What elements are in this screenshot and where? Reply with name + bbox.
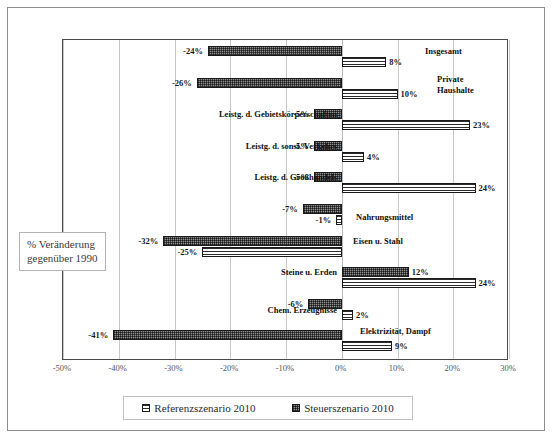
value-label-referenz: 4% xyxy=(367,152,380,162)
category-label-line: Insgesamt xyxy=(425,46,462,57)
category-label: Nahrungsmittel xyxy=(356,212,413,223)
bar-referenz xyxy=(342,152,364,162)
x-tick-label--40: -40% xyxy=(109,363,127,373)
plot-area: -24%8%Insgesamt-26%10%PrivateHaushalte-5… xyxy=(62,39,508,360)
bar-steuer xyxy=(113,330,342,340)
category-label: Eisen u. Stahl xyxy=(353,236,403,247)
value-label-steuer: -26% xyxy=(172,78,192,88)
annotation-box: % Veränderung gegenüber 1990 xyxy=(19,232,106,271)
value-label-steuer: -24% xyxy=(183,46,203,56)
category-label: PrivateHaushalte xyxy=(437,74,474,96)
x-tick-label-10: 10% xyxy=(389,363,405,373)
category-label: Chem. Erzeugnisse xyxy=(268,305,337,316)
value-label-referenz: 24% xyxy=(479,278,496,288)
x-tick-label--30: -30% xyxy=(164,363,182,373)
value-label-referenz: 10% xyxy=(401,89,418,99)
chart-legend: Referenzszenario 2010 Steuerszenario 201… xyxy=(123,396,413,420)
value-label-steuer: -32% xyxy=(139,236,159,246)
chart-outer-frame: -24%8%Insgesamt-26%10%PrivateHaushalte-5… xyxy=(7,7,545,431)
value-label-steuer: 12% xyxy=(412,267,429,277)
bar-referenz xyxy=(336,215,342,225)
category-label: Elektrizität, Dampf xyxy=(360,326,431,337)
legend-swatch-icon-referenz xyxy=(142,404,150,412)
category-label-line: Leistg. d. Gebietskörperschaften xyxy=(219,109,337,120)
category-label: Steine u. Erden xyxy=(281,267,337,278)
category-label-line: Leistg. d. sonst. Verkehrs xyxy=(246,141,337,152)
category-label-line: Haushalte xyxy=(437,85,474,96)
bar-steuer xyxy=(163,236,341,246)
legend-label-steuer: Steuerszenario 2010 xyxy=(304,402,394,414)
x-tick-label-30: 30% xyxy=(500,363,516,373)
bar-row: -26%10%PrivateHaushalte xyxy=(63,76,507,108)
bar-referenz xyxy=(202,247,341,257)
bar-row: -7%-1%Nahrungsmittel xyxy=(63,202,507,234)
category-label-line: Nahrungsmittel xyxy=(356,212,413,223)
bar-steuer xyxy=(303,204,342,214)
bar-referenz xyxy=(342,89,398,99)
bar-row: -5%24%Leistg. d. Großhandels xyxy=(63,170,507,202)
annotation-line-2: gegenüber 1990 xyxy=(27,251,98,265)
category-label-line: Steine u. Erden xyxy=(281,267,337,278)
x-axis-ticks: -50%-40%-30%-20%-10%0%10%20%30% xyxy=(62,363,508,379)
value-label-referenz: -25% xyxy=(178,247,198,257)
category-label-line: Chem. Erzeugnisse xyxy=(268,305,337,316)
x-tick-label--10: -10% xyxy=(276,363,294,373)
category-label: Leistg. d. sonst. Verkehrs xyxy=(246,141,337,152)
value-label-referenz: 24% xyxy=(479,183,496,193)
legend-item-steuerszenario: Steuerszenario 2010 xyxy=(292,402,394,414)
bar-row: 12%24%Steine u. Erden xyxy=(63,265,507,297)
bar-referenz xyxy=(342,57,387,67)
value-label-steuer: -7% xyxy=(282,204,298,214)
category-label: Leistg. d. Großhandels xyxy=(254,172,337,183)
bar-steuer xyxy=(208,46,342,56)
bar-referenz xyxy=(342,120,470,130)
category-label: Insgesamt xyxy=(425,46,462,57)
bar-row: -5%23%Leistg. d. Gebietskörperschaften xyxy=(63,107,507,139)
category-label: Leistg. d. Gebietskörperschaften xyxy=(219,109,337,120)
bar-row: -32%-25%Eisen u. Stahl xyxy=(63,234,507,266)
bar-row: -6%2%Chem. Erzeugnisse xyxy=(63,297,507,329)
bar-referenz xyxy=(342,278,476,288)
bar-steuer xyxy=(197,78,342,88)
x-tick-label-20: 20% xyxy=(444,363,460,373)
bar-referenz xyxy=(342,310,353,320)
value-label-referenz: -1% xyxy=(316,215,332,225)
value-label-referenz: 23% xyxy=(473,120,490,130)
value-label-referenz: 9% xyxy=(395,341,408,351)
category-label-line: Leistg. d. Großhandels xyxy=(254,172,337,183)
annotation-line-1: % Veränderung xyxy=(27,237,98,251)
value-label-referenz: 8% xyxy=(389,57,402,67)
gridline-30 xyxy=(509,40,510,359)
bar-referenz xyxy=(342,341,392,351)
x-tick-label--50: -50% xyxy=(53,363,71,373)
category-label-line: Elektrizität, Dampf xyxy=(360,326,431,337)
x-tick-label-0: 0% xyxy=(335,363,346,373)
bar-row: -24%8%Insgesamt xyxy=(63,44,507,76)
bar-row: -41%9%Elektrizität, Dampf xyxy=(63,328,507,360)
bar-rows: -24%8%Insgesamt-26%10%PrivateHaushalte-5… xyxy=(63,40,507,359)
legend-item-referenzszenario: Referenzszenario 2010 xyxy=(142,402,255,414)
x-tick-label--20: -20% xyxy=(220,363,238,373)
bar-steuer xyxy=(342,267,409,277)
bar-row: -5%4%Leistg. d. sonst. Verkehrs xyxy=(63,139,507,171)
value-label-referenz: 2% xyxy=(356,310,369,320)
category-label-line: Private xyxy=(437,74,474,85)
value-label-steuer: -41% xyxy=(88,330,108,340)
legend-label-referenz: Referenzszenario 2010 xyxy=(154,402,255,414)
bar-referenz xyxy=(342,183,476,193)
legend-swatch-icon-steuer xyxy=(292,404,300,412)
category-label-line: Eisen u. Stahl xyxy=(353,236,403,247)
